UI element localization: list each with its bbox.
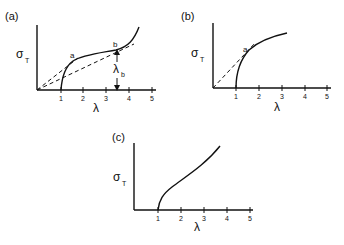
tick-label: 2 <box>257 93 261 100</box>
point-label-a: a <box>70 51 75 60</box>
figure: (a) 1 2 3 4 5 σ T λ a b λ b <box>0 0 344 245</box>
y-axis-label: σ <box>16 47 24 61</box>
tick-label: 5 <box>248 215 252 222</box>
panel-label: (b) <box>181 10 194 22</box>
stress-strain-curve <box>158 146 220 210</box>
tick-label: 1 <box>156 215 160 222</box>
tick-label: 1 <box>59 95 63 102</box>
tick-label: 4 <box>303 93 307 100</box>
panel-label: (a) <box>5 10 18 22</box>
x-axis-label: λ <box>194 220 200 234</box>
panel-label: (c) <box>112 131 125 143</box>
x-axis-label: λ <box>93 101 99 115</box>
y-axis-label-subscript: T <box>122 180 127 187</box>
stress-strain-curve <box>236 33 287 88</box>
tick-label: 4 <box>127 95 131 102</box>
tick-label: 4 <box>225 215 229 222</box>
panel-b: (b) 1 2 3 4 5 σ T λ a <box>181 10 331 114</box>
y-axis-label-subscript: T <box>25 57 30 64</box>
tick-label: 2 <box>81 95 85 102</box>
tick-label: 3 <box>104 95 108 102</box>
tick-label: 3 <box>202 215 206 222</box>
y-axis-label-subscript: T <box>200 56 205 63</box>
lambda-b-label: λ <box>113 62 119 76</box>
y-axis-label: σ <box>113 170 121 184</box>
tick-label: 5 <box>325 93 329 100</box>
panel-c: (c) 1 2 3 4 5 σ T λ <box>112 131 253 234</box>
tick-label: 1 <box>234 93 238 100</box>
panel-a: (a) 1 2 3 4 5 σ T λ a b λ b <box>5 10 156 115</box>
secant-line-b <box>37 44 134 90</box>
point-label-b: b <box>113 40 118 49</box>
tick-label: 2 <box>179 215 183 222</box>
tick-label: 5 <box>150 95 154 102</box>
x-axis-label: λ <box>274 100 280 114</box>
lambda-b-subscript: b <box>121 71 125 78</box>
tick-label: 3 <box>280 93 284 100</box>
y-axis-label: σ <box>191 46 199 60</box>
point-label-a: a <box>243 45 248 54</box>
